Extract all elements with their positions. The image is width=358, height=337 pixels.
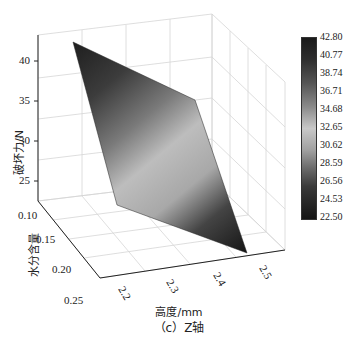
colorbar [301, 37, 317, 220]
colorbar-tick: 22.50 [320, 211, 343, 222]
x-axis-ticks: 2.2 2.3 2.4 2.5 [116, 263, 275, 302]
colorbar-tick: 30.62 [320, 139, 343, 150]
x-axis-label: 高度/mm [0, 303, 358, 319]
colorbar-tick: 40.77 [320, 49, 343, 60]
y-tick-2: 0.20 [52, 263, 72, 275]
x-tick-2: 2.4 [211, 270, 229, 288]
colorbar-tick: 42.80 [320, 31, 343, 42]
z-axis-label: 破坏力/N [10, 130, 26, 175]
colorbar-tick: 24.53 [320, 193, 343, 204]
y-tick-0: 0.10 [18, 209, 38, 221]
z-tick-35: 35 [19, 94, 31, 106]
colorbar-tick: 38.74 [320, 67, 343, 78]
x-tick-0: 2.2 [116, 284, 133, 302]
figure-caption: （c）Z轴 [0, 318, 358, 335]
x-tick-3: 2.5 [257, 263, 275, 281]
x-tick-1: 2.3 [164, 277, 182, 295]
z-tick-25: 25 [19, 174, 31, 186]
colorbar-tick: 26.56 [320, 175, 343, 186]
colorbar-tick: 34.68 [320, 103, 343, 114]
z-tick-40: 40 [19, 54, 31, 66]
colorbar-tick: 28.59 [320, 157, 343, 168]
colorbar-tick: 36.71 [320, 85, 343, 96]
y-axis-label: 水分含量 [25, 233, 41, 277]
colorbar-tick: 32.65 [320, 121, 343, 132]
